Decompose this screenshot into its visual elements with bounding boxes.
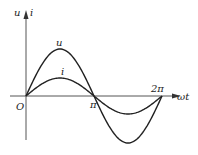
sine-waveform-diagram: u i u i O π 2π ωt — [0, 0, 198, 155]
x-axis-label: ωt — [177, 91, 190, 102]
y-axis-label-u: u — [14, 7, 20, 18]
curve-label-u: u — [56, 37, 62, 48]
tick-label-2pi: 2π — [150, 83, 164, 94]
y-axis-arrow-icon — [24, 10, 29, 19]
origin-label: O — [16, 101, 24, 112]
tick-label-pi: π — [89, 99, 97, 110]
curve-label-i: i — [61, 66, 64, 77]
y-axis-label-i: i — [30, 7, 33, 18]
